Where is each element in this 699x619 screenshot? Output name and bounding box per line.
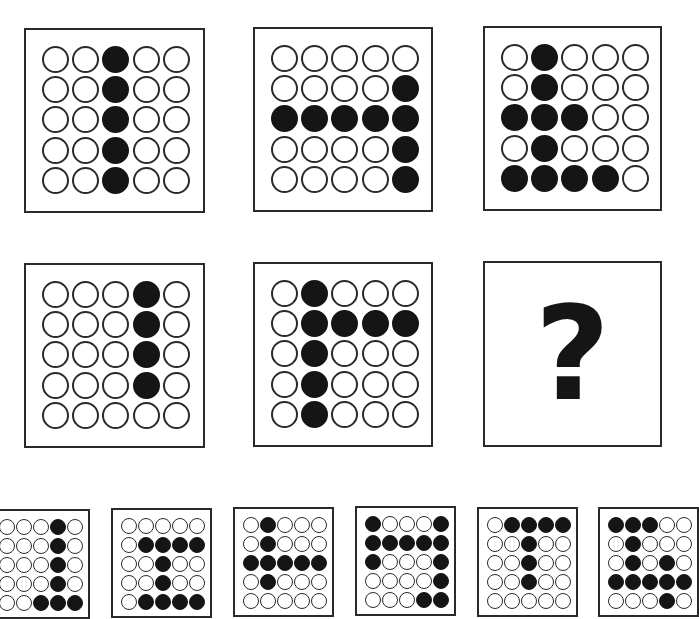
empty-circle-icon (16, 519, 32, 535)
empty-circle-icon (33, 557, 49, 573)
filled-circle-icon (133, 281, 160, 308)
empty-circle-icon (504, 536, 520, 552)
answer-option-5[interactable] (477, 507, 578, 617)
matrix-cell-4 (24, 263, 205, 448)
filled-circle-icon (243, 555, 259, 571)
empty-circle-icon (277, 517, 293, 533)
filled-circle-icon (365, 516, 381, 532)
empty-circle-icon (42, 106, 69, 133)
empty-circle-icon (608, 536, 624, 552)
answer-option-1[interactable] (0, 509, 90, 619)
filled-circle-icon (392, 136, 419, 163)
filled-circle-icon (189, 594, 205, 610)
answer-option-6[interactable] (598, 507, 699, 617)
empty-circle-icon (625, 593, 641, 609)
empty-circle-icon (592, 44, 619, 71)
empty-circle-icon (72, 46, 99, 73)
empty-circle-icon (189, 556, 205, 572)
empty-circle-icon (16, 557, 32, 573)
empty-circle-icon (72, 137, 99, 164)
empty-circle-icon (331, 166, 358, 193)
empty-circle-icon (487, 593, 503, 609)
answer-option-4[interactable] (355, 506, 456, 616)
filled-circle-icon (301, 310, 328, 337)
filled-circle-icon (392, 105, 419, 132)
filled-circle-icon (538, 517, 554, 533)
filled-circle-icon (521, 536, 537, 552)
empty-circle-icon (189, 575, 205, 591)
empty-circle-icon (331, 401, 358, 428)
filled-circle-icon (625, 536, 641, 552)
empty-circle-icon (392, 45, 419, 72)
empty-circle-icon (331, 280, 358, 307)
filled-circle-icon (382, 535, 398, 551)
filled-circle-icon (416, 535, 432, 551)
empty-circle-icon (362, 371, 389, 398)
filled-circle-icon (592, 165, 619, 192)
filled-circle-icon (659, 555, 675, 571)
dot-grid (0, 517, 84, 613)
filled-circle-icon (301, 280, 328, 307)
filled-circle-icon (504, 517, 520, 533)
empty-circle-icon (243, 536, 259, 552)
filled-circle-icon (625, 555, 641, 571)
empty-circle-icon (294, 593, 310, 609)
filled-circle-icon (501, 104, 528, 131)
empty-circle-icon (399, 516, 415, 532)
empty-circle-icon (102, 402, 129, 429)
filled-circle-icon (311, 555, 327, 571)
answer-option-2[interactable] (111, 508, 212, 618)
empty-circle-icon (301, 75, 328, 102)
empty-circle-icon (487, 574, 503, 590)
empty-circle-icon (121, 518, 137, 534)
empty-circle-icon (72, 372, 99, 399)
empty-circle-icon (622, 44, 649, 71)
empty-circle-icon (42, 341, 69, 368)
filled-circle-icon (260, 517, 276, 533)
empty-circle-icon (622, 104, 649, 131)
empty-circle-icon (504, 555, 520, 571)
empty-circle-icon (102, 281, 129, 308)
empty-circle-icon (659, 536, 675, 552)
empty-circle-icon (331, 371, 358, 398)
filled-circle-icon (642, 517, 658, 533)
empty-circle-icon (163, 46, 190, 73)
empty-circle-icon (42, 167, 69, 194)
empty-circle-icon (676, 593, 692, 609)
filled-circle-icon (102, 46, 129, 73)
empty-circle-icon (487, 555, 503, 571)
empty-circle-icon (392, 340, 419, 367)
empty-circle-icon (382, 516, 398, 532)
empty-circle-icon (0, 519, 15, 535)
filled-circle-icon (102, 167, 129, 194)
filled-circle-icon (416, 592, 432, 608)
dot-grid (269, 278, 421, 430)
empty-circle-icon (138, 518, 154, 534)
empty-circle-icon (163, 137, 190, 164)
empty-circle-icon (331, 75, 358, 102)
empty-circle-icon (133, 106, 160, 133)
empty-circle-icon (138, 575, 154, 591)
filled-circle-icon (555, 517, 571, 533)
empty-circle-icon (561, 44, 588, 71)
empty-circle-icon (561, 74, 588, 101)
empty-circle-icon (561, 135, 588, 162)
empty-circle-icon (102, 372, 129, 399)
empty-circle-icon (487, 536, 503, 552)
question-mark-icon: ? (485, 263, 660, 445)
filled-circle-icon (260, 574, 276, 590)
filled-circle-icon (189, 537, 205, 553)
empty-circle-icon (416, 554, 432, 570)
empty-circle-icon (538, 593, 554, 609)
answer-option-3[interactable] (233, 507, 334, 617)
filled-circle-icon (50, 576, 66, 592)
filled-circle-icon (501, 165, 528, 192)
empty-circle-icon (163, 372, 190, 399)
filled-circle-icon (67, 595, 83, 611)
empty-circle-icon (121, 594, 137, 610)
empty-circle-icon (362, 45, 389, 72)
empty-circle-icon (163, 76, 190, 103)
filled-circle-icon (392, 166, 419, 193)
empty-circle-icon (622, 74, 649, 101)
empty-circle-icon (260, 593, 276, 609)
